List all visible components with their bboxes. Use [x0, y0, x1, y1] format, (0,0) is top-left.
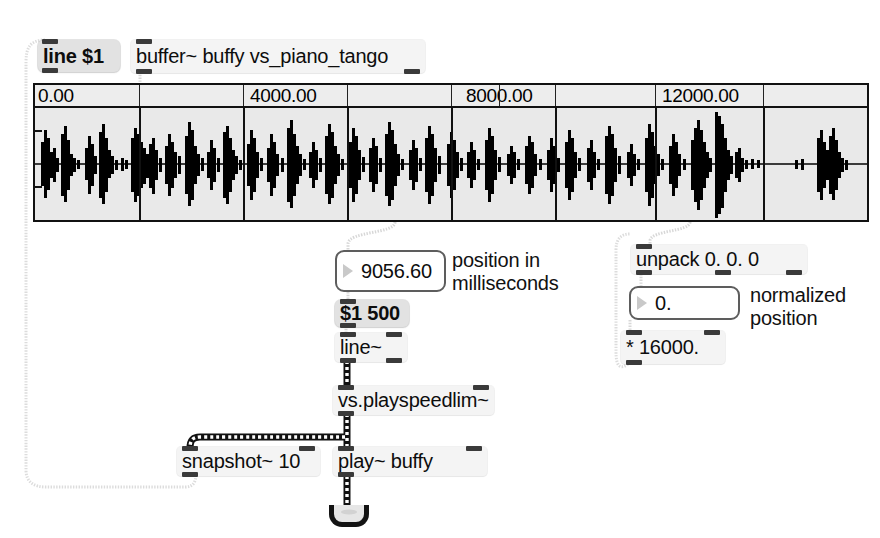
inlet-nub[interactable]: [42, 39, 58, 44]
number-box-position-ms-value: 9056.60: [361, 260, 432, 283]
comment-normalized-position: normalized position: [750, 284, 846, 330]
ruler-gridline: [763, 85, 764, 106]
waveform-gridline: [655, 108, 657, 220]
object-unpack-label: unpack 0. 0. 0: [636, 248, 759, 271]
inlet-nub-left[interactable]: [338, 385, 354, 390]
message-line-dollar1-label: line $1: [43, 45, 104, 68]
object-snapshot-label: snapshot~ 10: [182, 450, 300, 473]
inlet-nub-left[interactable]: [338, 446, 354, 451]
waveform-gridline: [451, 108, 453, 220]
object-play-buffy-label: play~ buffy: [338, 450, 433, 473]
ezdac-speaker-icon[interactable]: [329, 505, 369, 527]
object-vs-playspeedlim[interactable]: vs.playspeedlim~: [333, 386, 494, 415]
object-line-signal-label: line~: [340, 336, 382, 359]
outlet-nub-mid[interactable]: [715, 270, 731, 275]
outlet-nub-right[interactable]: [404, 69, 420, 74]
comment-position-in-milliseconds: position in milliseconds: [452, 249, 559, 295]
outlet-nub-left[interactable]: [636, 270, 652, 275]
max-patcher-canvas: line $1 buffer~ buffy vs_piano_tango 0.0…: [0, 0, 880, 538]
ruler-gridline: [139, 85, 140, 106]
outlet-nub-right[interactable]: [386, 358, 402, 363]
object-buffer-label: buffer~ buffy vs_piano_tango: [136, 45, 388, 68]
ruler-gridline: [655, 85, 656, 106]
outlet-nub[interactable]: [42, 68, 58, 73]
amplitude-tick: [35, 186, 42, 188]
outlet-nub-left[interactable]: [340, 358, 356, 363]
number-box-position-ms[interactable]: 9056.60: [335, 250, 446, 292]
object-vs-playspeedlim-label: vs.playspeedlim~: [338, 389, 489, 412]
object-line-signal[interactable]: line~: [335, 333, 407, 362]
object-play-buffy[interactable]: play~ buffy: [333, 447, 487, 476]
waveform-gridline: [555, 108, 557, 220]
object-unpack[interactable]: unpack 0. 0. 0: [631, 245, 807, 274]
inlet-nub-right[interactable]: [466, 446, 482, 451]
amplitude-tick: [35, 130, 42, 132]
ruler-label-12000: 12000.00: [659, 84, 739, 107]
ruler-gridline: [499, 85, 500, 106]
inlet-nub[interactable]: [340, 299, 356, 304]
inlet-nub-right[interactable]: [386, 332, 402, 337]
ruler-gridline: [451, 85, 452, 106]
outlet-nub[interactable]: [340, 323, 356, 328]
outlet-nub-left[interactable]: [136, 69, 152, 74]
waveform-ruler[interactable]: 0.00 4000.00 8000.00 12000.00: [35, 85, 867, 108]
waveform-gridline: [243, 108, 245, 220]
inlet-nub-left[interactable]: [182, 446, 198, 451]
ruler-gridline: [555, 85, 556, 106]
outlet-nub[interactable]: [338, 472, 354, 477]
ruler-label-0: 0.00: [35, 84, 74, 107]
ruler-label-8000: 8000.00: [463, 84, 533, 107]
inlet-nub-left[interactable]: [626, 330, 642, 335]
object-multiply-16000[interactable]: * 16000.: [621, 331, 725, 364]
waveform-gridline: [763, 108, 765, 220]
object-snapshot[interactable]: snapshot~ 10: [177, 447, 320, 476]
ruler-gridline: [347, 85, 348, 106]
object-multiply-16000-label: * 16000.: [626, 336, 699, 359]
message-line-dollar1[interactable]: line $1: [38, 40, 120, 72]
inlet-nub-left[interactable]: [340, 332, 356, 337]
outlet-nub[interactable]: [626, 360, 642, 365]
ruler-gridline: [243, 85, 244, 106]
inlet-nub-right[interactable]: [704, 330, 720, 335]
inlet-nub[interactable]: [636, 244, 652, 249]
number-box-normalized-position[interactable]: 0.: [629, 286, 740, 320]
waveform-body[interactable]: [35, 108, 867, 220]
inlet-nub[interactable]: [136, 39, 152, 44]
number-box-normalized-position-value: 0.: [655, 292, 671, 315]
outlet-nub[interactable]: [338, 411, 354, 416]
inlet-nub-right[interactable]: [473, 385, 489, 390]
outlet-nub-right[interactable]: [786, 270, 802, 275]
outlet-nub[interactable]: [182, 472, 198, 477]
ruler-label-4000: 4000.00: [247, 84, 317, 107]
waveform-display[interactable]: 0.00 4000.00 8000.00 12000.00: [33, 83, 869, 222]
message-ramp-time[interactable]: $1 500: [335, 300, 409, 327]
inlet-nub-right[interactable]: [299, 446, 315, 451]
message-ramp-time-label: $1 500: [340, 302, 400, 325]
object-buffer[interactable]: buffer~ buffy vs_piano_tango: [131, 40, 425, 73]
waveform-gridline: [139, 108, 141, 220]
waveform-gridline: [347, 108, 349, 220]
